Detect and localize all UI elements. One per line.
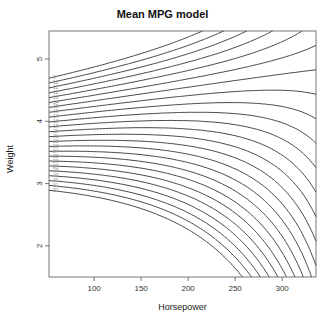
x-tick-label: 250: [228, 284, 242, 293]
contour-line: [49, 103, 316, 119]
contour-line: [49, 112, 316, 143]
x-tick-label: 200: [181, 284, 195, 293]
contour-line: [49, 166, 287, 277]
y-tick-label: 4: [35, 119, 44, 124]
contour-line: [49, 134, 316, 217]
contour-line: [49, 181, 260, 277]
contour-line: [49, 146, 316, 266]
x-tick-label: 150: [134, 284, 148, 293]
contour-plot: 9101112131415161718192021222324252627282…: [0, 0, 325, 323]
contour-line: [49, 176, 269, 277]
contour-line: [49, 128, 316, 193]
contour-lines: [49, 31, 316, 277]
contour-labels: 9101112131415161718192021222324252627282…: [53, 74, 59, 193]
y-tick-label: 2: [35, 243, 44, 248]
x-tick-label: 100: [87, 284, 101, 293]
contour-line: [49, 31, 302, 98]
x-tick-label: 300: [275, 284, 289, 293]
contour-label: 32: [53, 187, 59, 193]
axes: 1001502002503002345: [35, 56, 289, 293]
contour-line: [49, 120, 316, 167]
y-tick-label: 5: [35, 56, 44, 61]
contour-line: [49, 171, 278, 277]
y-tick-label: 3: [35, 181, 44, 186]
contour-line: [49, 185, 252, 277]
contour-line: [49, 151, 312, 277]
contour-line: [49, 156, 303, 277]
contour-line: [49, 70, 316, 108]
